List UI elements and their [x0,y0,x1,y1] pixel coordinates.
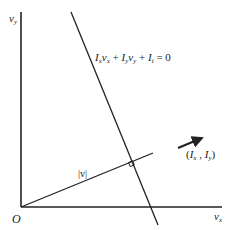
constraint-line [71,12,158,225]
right-angle-marker [129,161,135,167]
origin-label: O [12,213,21,225]
x-axis-label: vx [214,211,222,224]
normal-vector-label: |v| [78,169,87,179]
gradient-arrow [178,138,202,148]
y-axis-label: vy [9,13,17,26]
diagram-canvas [0,0,230,230]
gradient-label: (Ix , Iy) [186,149,215,162]
constraint-equation: Ixvx + Iyvy + It = 0 [95,52,171,65]
